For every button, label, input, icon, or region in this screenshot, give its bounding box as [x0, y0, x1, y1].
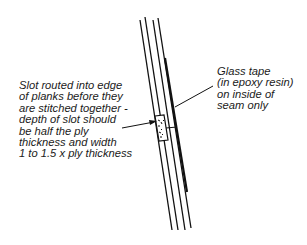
slot-annotation: Slot routed into edge of planks before t…: [19, 80, 132, 160]
tape-leader: [175, 86, 213, 107]
glass-tape-annotation: Glass tape (in epoxy resin) on inside of…: [217, 66, 293, 112]
